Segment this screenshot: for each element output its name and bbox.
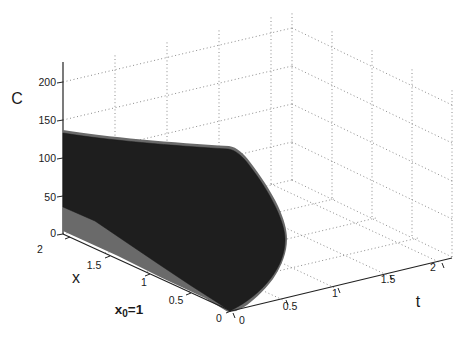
x-tick-label: 2 [37,243,43,255]
gridline [63,28,292,82]
z-tick-label: 0 [50,227,56,239]
x-tick-label: 0.5 [169,294,184,306]
tick-mark [65,237,70,239]
z-tick-label: 50 [44,191,56,203]
z-tick-marks [57,82,63,235]
x-tick-label: 1 [141,276,147,288]
t-tick-label: 0 [239,314,245,326]
tick-mark [57,196,63,197]
gridline [271,184,439,262]
x-axis-label: x [72,269,80,286]
z-tick-label: 200 [38,76,56,88]
z-tick-label: 150 [38,114,56,126]
t-tick-label: 0.5 [283,300,298,312]
z-axis-label: C [11,90,23,107]
tick-mark [442,263,444,268]
annotation-x0: x0=1 [115,302,144,319]
t-tick-label: 1 [332,287,338,299]
tick-mark [338,288,340,293]
tick-mark [186,293,191,295]
z-tick-labels: 0 50 100 150 200 [38,76,56,239]
t-tick-label: 1.5 [381,273,396,285]
t-axis-label: t [416,293,421,310]
tick-mark [57,234,63,235]
gridline [292,28,452,105]
tick-mark [233,313,235,318]
grid-wall-right [292,28,452,257]
z-tick-label: 100 [38,152,56,164]
tick-mark [57,158,63,159]
tick-mark [105,256,110,258]
x-tick-label: 0 [216,312,222,324]
tick-mark [57,120,63,121]
t-tick-label: 2 [430,261,436,273]
tick-mark [57,82,63,83]
annotation-rest: =1 [128,302,144,317]
x-tick-label: 1.5 [87,259,102,271]
gridline [63,66,292,120]
surface-plot-canvas: 0 50 100 150 200 2 1.5 1 0.5 0 0 0.5 1 1… [0,0,460,338]
figure: 0 50 100 150 200 2 1.5 1 0.5 0 0 0.5 1 1… [0,0,460,338]
